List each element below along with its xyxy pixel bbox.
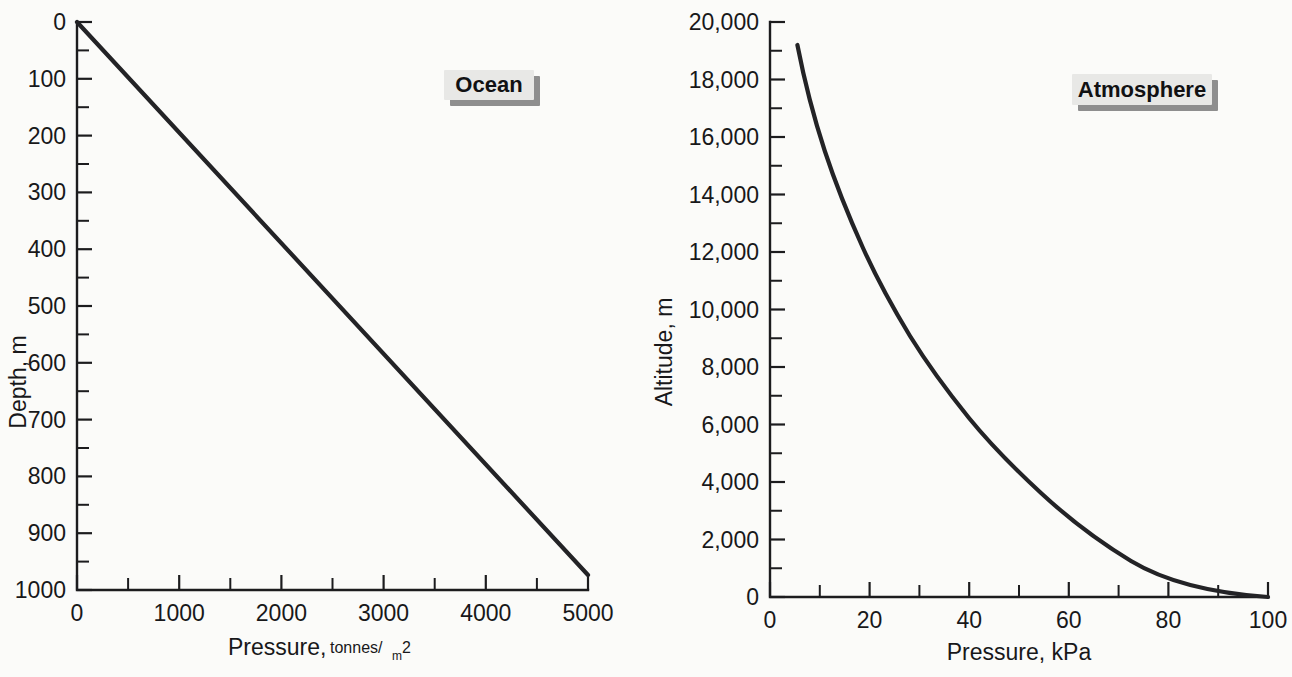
atmosphere-x-tick-label-40: 40 <box>956 607 982 633</box>
ocean-x-tick-label-4000: 4000 <box>460 600 511 626</box>
ocean-x-tick-label-0: 0 <box>71 600 84 626</box>
atmosphere-y-tick-label-18000: 18,000 <box>689 67 759 93</box>
ocean-x-axis-title: Pressure, tonnes/ m 2 <box>228 634 411 663</box>
ocean-y-tick-label-800: 800 <box>28 463 66 489</box>
atmosphere-y-tick-label-2000: 2,000 <box>701 527 759 553</box>
atmosphere-y-axis-title: Altitude, m <box>651 298 677 407</box>
ocean-y-axis-title: Depth, m <box>5 335 31 428</box>
ocean-y-tick-label-300: 300 <box>28 179 66 205</box>
atmosphere-y-tick-label-12000: 12,000 <box>689 239 759 265</box>
ocean-x-tick-label-1000: 1000 <box>154 600 205 626</box>
ocean-y-tick-label-500: 500 <box>28 293 66 319</box>
ocean-badge: Ocean <box>444 70 540 106</box>
ocean-y-tick-label-900: 900 <box>28 520 66 546</box>
atmosphere-badge: Atmosphere <box>1072 74 1218 111</box>
atmosphere-badge-label: Atmosphere <box>1078 77 1206 102</box>
ocean-y-tick-label-400: 400 <box>28 236 66 262</box>
ocean-x-axis-title-unit-sub: m <box>392 649 402 663</box>
atmosphere-x-axis-title: Pressure, kPa <box>947 639 1092 665</box>
ocean-x-axis-title-main: Pressure, <box>228 634 326 660</box>
atmosphere-y-tick-label-10000: 10,000 <box>689 297 759 323</box>
atmosphere-y-tick-label-8000: 8,000 <box>701 354 759 380</box>
figure-page: 0 100 200 300 400 500 600 700 800 900 10… <box>0 0 1292 677</box>
atmosphere-x-tick-label-100: 100 <box>1249 607 1287 633</box>
atmosphere-x-tick-label-80: 80 <box>1156 607 1182 633</box>
ocean-panel: 0 100 200 300 400 500 600 700 800 900 10… <box>5 9 614 663</box>
atmosphere-y-tick-label-0: 0 <box>746 584 759 610</box>
atmosphere-x-tick-label-0: 0 <box>764 607 777 633</box>
atmosphere-y-tick-label-16000: 16,000 <box>689 124 759 150</box>
ocean-x-tick-label-2000: 2000 <box>256 600 307 626</box>
ocean-y-tick-label-200: 200 <box>28 123 66 149</box>
atmosphere-y-tick-label-14000: 14,000 <box>689 182 759 208</box>
atmosphere-y-tick-label-6000: 6,000 <box>701 412 759 438</box>
ocean-x-minor-ticks <box>128 578 537 590</box>
ocean-y-tick-label-1000: 1000 <box>15 577 66 603</box>
atmosphere-x-tick-label-20: 20 <box>857 607 883 633</box>
ocean-x-tick-label-5000: 5000 <box>562 600 613 626</box>
ocean-y-tick-label-700: 700 <box>28 407 66 433</box>
ocean-badge-label: Ocean <box>455 72 522 97</box>
ocean-x-tick-label-3000: 3000 <box>358 600 409 626</box>
atmosphere-x-tick-label-60: 60 <box>1056 607 1082 633</box>
ocean-y-tick-label-600: 600 <box>28 350 66 376</box>
atmosphere-y-tick-label-20000: 20,000 <box>689 9 759 35</box>
ocean-x-axis-title-unit-sup: 2 <box>402 639 411 656</box>
ocean-y-tick-label-0: 0 <box>53 9 66 35</box>
ocean-x-axis-title-unit: tonnes/ <box>330 639 383 656</box>
atmosphere-panel: 0 2,000 4,000 6,000 8,000 10,000 12,000 … <box>651 9 1287 665</box>
ocean-y-tick-label-100: 100 <box>28 66 66 92</box>
two-panel-pressure-figure: 0 100 200 300 400 500 600 700 800 900 10… <box>0 0 1292 677</box>
atmosphere-pressure-altitude-curve <box>797 45 1268 597</box>
atmosphere-x-minor-ticks <box>820 585 1218 597</box>
atmosphere-y-tick-label-4000: 4,000 <box>701 469 759 495</box>
